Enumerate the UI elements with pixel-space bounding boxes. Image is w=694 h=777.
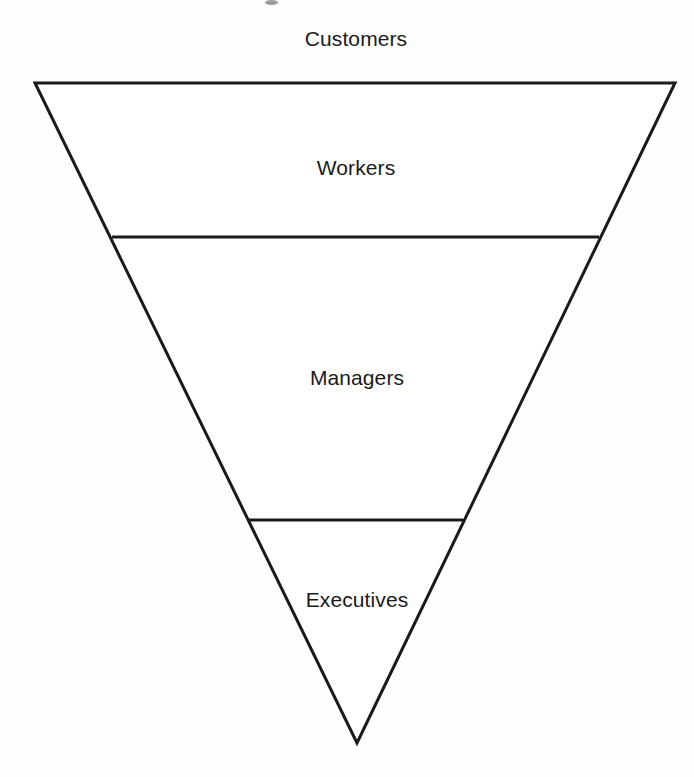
pyramid-label-workers: Workers <box>317 157 396 178</box>
pyramid-label-executives: Executives <box>306 589 409 610</box>
pyramid-label-managers: Managers <box>310 367 404 388</box>
pyramid-label-customers: Customers <box>305 28 407 49</box>
scan-speck-artifact-icon <box>265 0 278 5</box>
inverted-pyramid-diagram: Customers Workers Managers Executives <box>0 0 694 777</box>
pyramid-outline <box>35 83 675 743</box>
pyramid-graphic <box>0 0 694 777</box>
